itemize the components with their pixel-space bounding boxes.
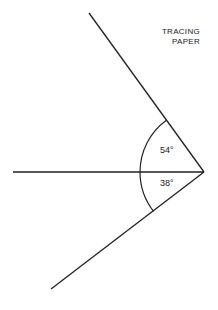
lower-ray xyxy=(51,172,204,289)
lower-angle-label: 38° xyxy=(160,178,174,188)
tracing-paper-label: TRACING PAPER xyxy=(150,27,200,47)
title-line-1: TRACING xyxy=(150,27,200,37)
title-line-2: PAPER xyxy=(150,37,200,47)
lower-angle-arc xyxy=(140,172,154,211)
upper-angle-label: 54° xyxy=(160,145,174,155)
